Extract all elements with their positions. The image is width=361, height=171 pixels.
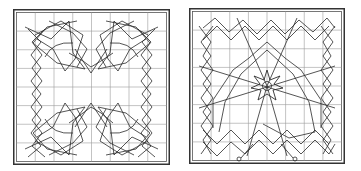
right-pattern-panel xyxy=(189,8,345,164)
left-knot-diagram xyxy=(13,9,170,165)
right-knot-diagram xyxy=(189,8,345,164)
left-pattern-panel xyxy=(13,9,170,165)
